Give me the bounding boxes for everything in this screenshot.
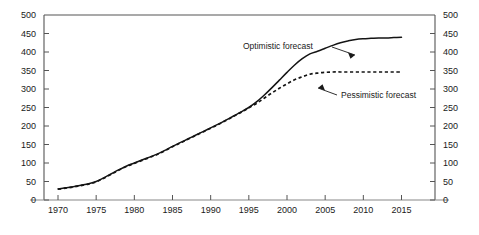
- y-tick-label-right: 350: [443, 66, 458, 76]
- y-tick-label-right: 100: [443, 158, 458, 168]
- x-tick-label: 2015: [391, 205, 411, 215]
- y-tick-label-left: 0: [31, 195, 36, 205]
- forecast-line-chart: 050100150200250300350400450500 050100150…: [0, 0, 479, 235]
- annotation-optimistic-label: Optimistic forecast: [243, 41, 314, 51]
- x-tick-label: 1975: [86, 205, 106, 215]
- x-tick-label: 1980: [124, 205, 144, 215]
- annotation-pessimistic-label: Pessimistic forecast: [341, 90, 417, 100]
- y-tick-label-right: 300: [443, 84, 458, 94]
- y-tick-label-left: 400: [21, 47, 36, 57]
- y-tick-label-left: 100: [21, 158, 36, 168]
- y-tick-label-left: 50: [26, 177, 36, 187]
- y-tick-label-right: 200: [443, 121, 458, 131]
- y-tick-label-right: 400: [443, 47, 458, 57]
- x-tick-label: 1970: [48, 205, 68, 215]
- x-tick-label: 2000: [277, 205, 297, 215]
- y-tick-label-right: 500: [443, 10, 458, 20]
- chart-canvas: 050100150200250300350400450500 050100150…: [0, 0, 479, 235]
- y-tick-label-left: 300: [21, 84, 36, 94]
- y-tick-label-left: 250: [21, 103, 36, 113]
- y-tick-label-right: 0: [443, 195, 448, 205]
- y-tick-label-right: 250: [443, 103, 458, 113]
- x-tick-label: 2005: [315, 205, 335, 215]
- y-tick-label-left: 150: [21, 140, 36, 150]
- y-tick-label-right: 50: [443, 177, 453, 187]
- x-tick-label: 1985: [162, 205, 182, 215]
- x-tick-label: 1990: [201, 205, 221, 215]
- y-tick-label-left: 500: [21, 10, 36, 20]
- y-tick-label-right: 450: [443, 29, 458, 39]
- y-tick-label-right: 150: [443, 140, 458, 150]
- x-tick-label: 2010: [353, 205, 373, 215]
- x-tick-label: 1995: [239, 205, 259, 215]
- y-tick-label-left: 450: [21, 29, 36, 39]
- y-tick-label-left: 350: [21, 66, 36, 76]
- y-tick-label-left: 200: [21, 121, 36, 131]
